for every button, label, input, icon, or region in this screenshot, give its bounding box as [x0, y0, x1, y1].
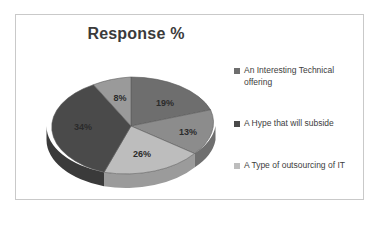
pie-label-8: 8%	[113, 93, 126, 103]
legend-swatch-icon	[234, 121, 240, 127]
legend-item-label: A Hype that will subside	[244, 118, 334, 130]
pie-label-13: 13%	[179, 127, 197, 137]
legend-item-hype-that-will-subside[interactable]: A Hype that will subside	[234, 118, 362, 130]
legend-item-type-of-outsourcing-of-it[interactable]: A Type of outsourcing of IT	[234, 160, 362, 172]
pie-label-26: 26%	[133, 149, 151, 159]
legend-item-interesting-technical-offering[interactable]: An Interesting Technical offering	[234, 65, 362, 88]
pie-label-34: 34%	[74, 122, 92, 132]
pie-chart: 19% 13% 26% 34% 8%	[36, 63, 226, 193]
legend-swatch-icon	[234, 163, 240, 169]
chart-legend: An Interesting Technical offering A Hype…	[234, 65, 362, 201]
legend-item-label: A Type of outsourcing of IT	[244, 160, 345, 172]
chart-title: Response %	[16, 25, 256, 43]
legend-swatch-icon	[234, 68, 240, 74]
chart-frame: Response %	[15, 14, 364, 200]
pie-label-19: 19%	[156, 98, 174, 108]
pie-chart-svg: 19% 13% 26% 34% 8%	[36, 63, 226, 193]
legend-item-label: An Interesting Technical offering	[244, 65, 362, 88]
